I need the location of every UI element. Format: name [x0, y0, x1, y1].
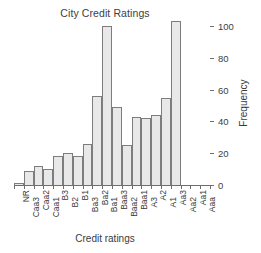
y-axis-tick-label: 40 [218, 116, 229, 127]
y-axis-tick [210, 185, 214, 186]
y-axis-line [210, 18, 211, 185]
x-axis-title: Credit ratings [0, 233, 210, 244]
bar-slot [92, 18, 102, 185]
x-axis-tick [200, 185, 201, 189]
x-axis-tick [151, 185, 152, 189]
y-axis-tick [210, 153, 214, 154]
bar [102, 26, 112, 185]
bar [83, 144, 93, 185]
y-axis-tick-label: 100 [218, 20, 234, 31]
bar-slot [73, 18, 83, 185]
x-axis-tick [132, 185, 133, 189]
x-axis-tick [122, 185, 123, 189]
x-axis-tick [73, 185, 74, 189]
x-axis-tick-label: NR [22, 190, 31, 202]
y-axis-tick-label: 60 [218, 84, 229, 95]
bar-slot [200, 18, 210, 185]
x-axis-tick [34, 185, 35, 189]
x-axis-tick-label: Ba1 [110, 197, 119, 212]
bar-slot [34, 18, 44, 185]
bar [92, 96, 102, 185]
bar [63, 153, 73, 185]
plot-area [14, 18, 210, 185]
bar-slot [132, 18, 142, 185]
bar-slot [102, 18, 112, 185]
bar [43, 169, 53, 185]
bar-slot [24, 18, 34, 185]
x-axis-tick-label: Aa3 [179, 190, 188, 205]
bar [132, 117, 142, 185]
x-axis-tick [53, 185, 54, 189]
bar-slot [43, 18, 53, 185]
bar [24, 171, 34, 185]
bar [73, 156, 83, 185]
y-axis-tick [210, 121, 214, 122]
x-axis-tick-label: B2 [71, 197, 80, 207]
x-axis-tick-label: Aa2 [189, 197, 198, 212]
x-axis-tick-label: Caa2 [42, 190, 51, 210]
bar-chart: City Credit Ratings 020406080100 NRCaa3C… [0, 0, 261, 253]
x-axis-tick [83, 185, 84, 189]
x-axis-tick-labels: NRCaa3Caa2Caa1B3B2B1Ba3Ba2Ba1Baa3Baa2Baa… [14, 190, 210, 230]
x-axis-tick [171, 185, 172, 189]
x-axis-tick-label: Aaa [208, 197, 217, 212]
bar-slot [171, 18, 181, 185]
y-axis-tick [210, 26, 214, 27]
x-axis-tick-label: A3 [150, 197, 159, 207]
bar-slot [112, 18, 122, 185]
y-axis-tick-label: 80 [218, 52, 229, 63]
x-axis-tick-label: Baa2 [130, 197, 139, 217]
x-axis-tick-label: Caa1 [52, 197, 61, 217]
x-axis-tick-label: Caa3 [32, 197, 41, 217]
x-axis-tick [24, 185, 25, 189]
bar [53, 156, 63, 185]
bar-slot [190, 18, 200, 185]
y-axis-tick-label: 0 [218, 180, 223, 191]
y-axis-tick-label: 20 [218, 148, 229, 159]
bar [112, 107, 122, 185]
x-axis-tick-label: B3 [61, 190, 70, 200]
bar-slot [141, 18, 151, 185]
bar [151, 115, 161, 185]
y-axis-tick [210, 90, 214, 91]
bar-slot [122, 18, 132, 185]
x-axis-tick-label: Baa3 [120, 190, 129, 210]
bar-slot [14, 18, 24, 185]
bar [34, 166, 44, 185]
y-axis-title: Frequency [238, 79, 249, 126]
x-axis-tick [181, 185, 182, 189]
x-axis-tick [63, 185, 64, 189]
bar-series [14, 18, 210, 185]
bar [141, 118, 151, 185]
bar [171, 21, 181, 185]
bar-slot [161, 18, 171, 185]
x-axis-tick [161, 185, 162, 189]
x-axis-tick [43, 185, 44, 189]
x-axis-tick-label: A1 [169, 197, 178, 207]
bar [122, 145, 132, 185]
bar-slot [181, 18, 191, 185]
x-axis-tick-label: Baa1 [140, 190, 149, 210]
x-axis-tick [92, 185, 93, 189]
bar-slot [53, 18, 63, 185]
x-axis-tick [190, 185, 191, 189]
x-axis-tick [14, 185, 15, 189]
bar-slot [151, 18, 161, 185]
x-axis-tick-label: B1 [81, 190, 90, 200]
x-axis-tick-label: A2 [159, 190, 168, 200]
x-axis-tick-label: Ba2 [101, 190, 110, 205]
x-axis-tick-label: Aa1 [199, 190, 208, 205]
bar-slot [83, 18, 93, 185]
x-axis-tick [112, 185, 113, 189]
y-axis-tick [210, 58, 214, 59]
bar [161, 98, 171, 185]
x-axis-tick-label: Ba3 [91, 197, 100, 212]
bar-slot [63, 18, 73, 185]
x-axis-tick [102, 185, 103, 189]
x-axis-tick [141, 185, 142, 189]
